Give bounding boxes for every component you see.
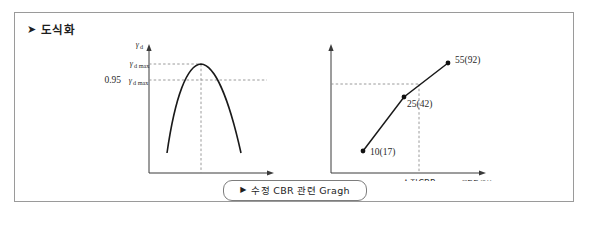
right-data-point-1 <box>361 149 366 154</box>
right-data-label-3: 55(92) <box>455 55 480 66</box>
left-compaction-curve <box>167 64 241 153</box>
triangle-right-icon: ▶ <box>240 186 246 194</box>
left-label-095-sub: d max <box>133 79 149 86</box>
right-x-axis-arrowhead <box>479 170 486 175</box>
graphs-svg: γ d γ d max 0.95 γ d max OMG w(%) <box>15 31 575 181</box>
left-x-axis-arrowhead <box>267 170 274 175</box>
right-data-label-2: 25(42) <box>407 99 432 110</box>
caption-text: 수정 CBR 관련 Gragh <box>251 183 349 197</box>
right-cbr-line <box>363 63 448 151</box>
left-chart: γ d γ d max 0.95 γ d max OMG w(%) <box>104 40 274 181</box>
screenshot-page: ➤ 도식화 <box>0 0 591 225</box>
left-y-axis-label-sub: d <box>140 43 144 50</box>
figure-area: γ d γ d max 0.95 γ d max OMG w(%) <box>15 31 575 181</box>
right-data-point-2 <box>402 95 407 100</box>
left-label-gammadmax-sub: d max <box>134 62 150 69</box>
right-y-axis-arrowhead <box>328 44 333 51</box>
content-panel: ➤ 도식화 <box>14 12 574 202</box>
right-data-point-3 <box>446 61 451 66</box>
caption-area: ▶ 수정 CBR 관련 Gragh <box>15 180 575 201</box>
right-data-label-1: 10(17) <box>370 147 395 158</box>
right-chart: 10(17) 25(42) 55(92) 수정CBR CBR(%) <box>328 44 492 181</box>
left-y-axis-arrowhead <box>146 44 151 51</box>
caption-box: ▶ 수정 CBR 관련 Gragh <box>223 180 367 201</box>
left-label-095-prefix: 0.95 <box>104 75 121 85</box>
